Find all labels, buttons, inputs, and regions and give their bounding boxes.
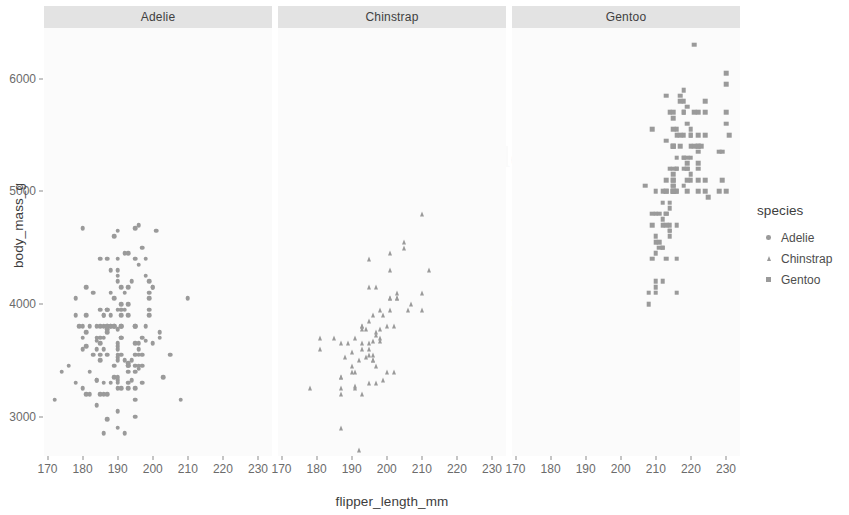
data-point [696, 178, 701, 183]
data-point [140, 380, 145, 385]
legend-key-square-icon [760, 271, 777, 288]
facet-panel-body [44, 28, 272, 456]
data-point [98, 392, 103, 397]
x-tick-mark [281, 456, 282, 460]
data-point [685, 161, 690, 166]
x-tick-label: 210 [636, 462, 676, 476]
legend-title: species [757, 203, 849, 218]
data-point [154, 228, 159, 233]
data-point [105, 257, 110, 262]
data-point [703, 110, 708, 115]
x-tick-label: 200 [367, 462, 407, 476]
facet-panel-chinstrap: Chinstrap [278, 6, 506, 456]
data-point [52, 397, 57, 402]
data-point [675, 223, 680, 228]
data-point [364, 327, 368, 332]
x-tick-mark [257, 456, 258, 460]
data-point [427, 268, 431, 273]
data-point [685, 121, 690, 126]
data-point [661, 245, 666, 250]
data-point [101, 347, 106, 352]
data-point [119, 302, 124, 307]
y-tick-mark [39, 303, 43, 304]
data-point [98, 307, 103, 312]
data-point [133, 341, 138, 346]
x-axis-adelie: 170180190200210220230 [44, 456, 272, 486]
data-point [133, 397, 138, 402]
x-tick-mark [515, 456, 516, 460]
data-point [80, 347, 85, 352]
data-point [675, 257, 680, 262]
data-point [84, 313, 89, 318]
data-point [692, 43, 697, 48]
data-point [129, 378, 134, 383]
data-point [654, 212, 659, 217]
data-point [143, 257, 148, 262]
data-point [378, 338, 382, 343]
data-point [147, 290, 152, 295]
legend-item-chinstrap[interactable]: Chinstrap [757, 248, 849, 269]
facet-strip-label: Chinstrap [278, 6, 506, 28]
legend-item-adelie[interactable]: Adelie [757, 227, 849, 248]
x-tick-label: 180 [63, 462, 103, 476]
data-point [661, 217, 666, 222]
legend-item-gentoo[interactable]: Gentoo [757, 269, 849, 290]
data-point [143, 273, 148, 278]
data-point [94, 403, 99, 408]
data-point [724, 110, 729, 115]
data-point [126, 302, 131, 307]
data-point [318, 347, 322, 352]
data-point [696, 189, 701, 194]
data-point [339, 392, 343, 397]
data-point [668, 110, 673, 115]
facet-panel-gentoo: Gentoo [512, 6, 740, 456]
data-point [140, 335, 145, 340]
x-tick-mark [152, 456, 153, 460]
data-point [727, 133, 732, 138]
data-point [661, 200, 666, 205]
data-point [122, 431, 127, 436]
data-point [671, 116, 676, 121]
data-point [115, 257, 120, 262]
data-point [129, 279, 134, 284]
data-point [682, 99, 687, 104]
x-tick-mark [82, 456, 83, 460]
data-point [350, 363, 354, 368]
data-point [671, 127, 676, 132]
data-point [654, 285, 659, 290]
data-point [409, 301, 413, 306]
x-tick-mark [491, 456, 492, 460]
data-point [420, 290, 424, 295]
x-tick-label: 180 [297, 462, 337, 476]
data-point [367, 380, 371, 385]
data-point [374, 363, 378, 368]
data-point [346, 341, 350, 346]
data-point [150, 285, 155, 290]
data-point [122, 358, 127, 363]
data-point [80, 335, 85, 340]
data-point [112, 296, 117, 301]
data-point [678, 144, 683, 149]
data-point [353, 369, 357, 374]
data-point [381, 313, 385, 318]
data-point [73, 296, 78, 301]
data-point [671, 144, 676, 149]
data-point [140, 245, 145, 250]
data-point [696, 133, 701, 138]
data-point [671, 166, 676, 171]
data-point [724, 189, 729, 194]
data-point [420, 307, 424, 312]
data-point [143, 324, 148, 329]
x-tick-mark [725, 456, 726, 460]
data-point [161, 375, 166, 380]
data-point [360, 327, 364, 332]
data-point [392, 324, 396, 329]
data-point [339, 425, 343, 430]
data-point [657, 240, 662, 245]
data-point [115, 347, 120, 352]
data-point [675, 155, 680, 160]
data-point [668, 228, 673, 233]
data-point [133, 414, 138, 419]
data-point [664, 189, 669, 194]
data-point [87, 369, 92, 374]
